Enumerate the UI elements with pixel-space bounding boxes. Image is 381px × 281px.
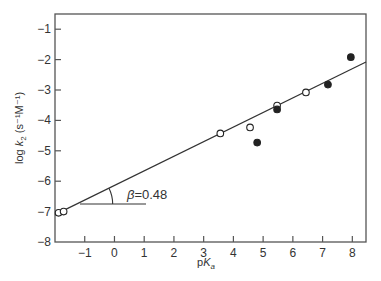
- x-tick-label: 8: [349, 246, 356, 260]
- filled-circle-marker: [274, 106, 281, 113]
- x-tick-label: 5: [260, 246, 267, 260]
- chart: −1−2−3−4−5−6−7−8 −1012345678 log k2 (s⁻¹…: [0, 0, 381, 281]
- open-circle-marker: [247, 124, 254, 131]
- y-tick-label: −3: [37, 83, 51, 97]
- angle-arc: [109, 188, 113, 204]
- beta-label: β=0.48: [126, 187, 167, 202]
- filled-circle-marker: [254, 139, 261, 146]
- x-tick-label: 7: [319, 246, 326, 260]
- y-tick-label: −8: [37, 235, 51, 249]
- y-tick-label: −6: [37, 174, 51, 188]
- plot-frame: [55, 14, 366, 242]
- regression-line: [55, 62, 366, 215]
- open-circle-marker: [60, 208, 67, 215]
- x-tick-label: 4: [230, 246, 237, 260]
- y-tick-label: −7: [37, 205, 51, 219]
- data-markers: [55, 54, 354, 216]
- x-tick-label: 1: [141, 246, 148, 260]
- x-tick-label: 2: [171, 246, 178, 260]
- filled-circle-marker: [348, 54, 355, 61]
- filled-circle-marker: [325, 81, 332, 88]
- y-tick-label: −2: [37, 53, 51, 67]
- y-axis-label: log k2 (s⁻¹M⁻¹): [13, 92, 28, 164]
- y-tick-label: −1: [37, 22, 51, 36]
- fit-line-segment: [55, 62, 366, 215]
- plot-border: [55, 14, 366, 242]
- x-tick-label: 0: [111, 246, 118, 260]
- x-tick-label: −1: [78, 246, 92, 260]
- open-circle-marker: [217, 130, 224, 137]
- x-axis-label: pKa: [197, 256, 215, 271]
- y-tick-label: −4: [37, 113, 51, 127]
- x-tick-label: 6: [290, 246, 297, 260]
- x-axis-ticks: −1012345678: [78, 236, 356, 260]
- y-tick-label: −5: [37, 144, 51, 158]
- open-circle-marker: [303, 89, 310, 96]
